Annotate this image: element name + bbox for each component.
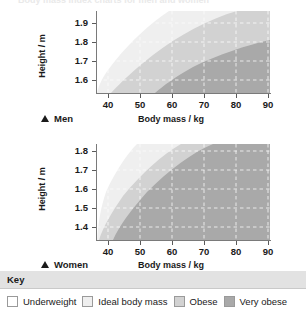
chart-men-x-tickmark [140, 94, 141, 98]
key-label-ideal-body-mass: Ideal body mass [98, 296, 167, 307]
chart-women-y-tick: 1.5 [45, 203, 88, 213]
chart-women-caption: Women [41, 259, 88, 270]
chart-women-plot-area [97, 144, 270, 240]
key-item-very-obese: Very obese [224, 296, 288, 307]
chart-men-x-tickmark [108, 94, 109, 98]
key-item-underweight: Underweight [7, 296, 76, 307]
chart-women-x-tick: 40 [98, 247, 118, 257]
chart-men-x-axis-line [96, 93, 271, 94]
triangle-marker-icon [41, 115, 49, 122]
chart-women-x-tickmark [108, 241, 109, 245]
chart-men-x-tick: 40 [98, 100, 118, 110]
chart-men: Height / m 1.9 1.8 1.7 1.6 [0, 6, 306, 134]
chart-women-x-tick: 90 [258, 247, 278, 257]
chart-men-bands-svg [97, 11, 270, 93]
key-legend: Key Underweight Ideal body mass Obese Ve… [0, 271, 306, 313]
chart-men-y-tick: 1.9 [45, 18, 88, 28]
chart-women-x-tick: 70 [194, 247, 214, 257]
chart-men-x-tickmark [268, 94, 269, 98]
key-item-list: Underweight Ideal body mass Obese Very o… [0, 289, 306, 313]
chart-women-x-tick: 50 [130, 247, 150, 257]
key-header: Key [0, 271, 306, 288]
key-label-obese: Obese [190, 296, 218, 307]
chart-women-y-tick: 1.7 [45, 165, 88, 175]
triangle-marker-icon [41, 261, 49, 268]
chart-men-x-tick: 80 [226, 100, 246, 110]
chart-men-x-tick: 60 [162, 100, 182, 110]
chart-women-x-tickmark [172, 241, 173, 245]
figure-title-text: Body mass index charts for men and women [18, 0, 306, 5]
chart-men-x-tick: 90 [258, 100, 278, 110]
chart-men-caption-label: Men [54, 113, 73, 124]
key-item-ideal-body-mass: Ideal body mass [82, 296, 167, 307]
chart-men-x-tick: 50 [130, 100, 150, 110]
chart-women-y-tick: 1.4 [45, 222, 88, 232]
chart-women-bands-svg [97, 144, 270, 240]
chart-men-x-tick: 70 [194, 100, 214, 110]
chart-men-plot-area [97, 11, 270, 93]
key-title: Key [7, 274, 24, 285]
key-label-underweight: Underweight [23, 296, 76, 307]
key-label-very-obese: Very obese [240, 296, 288, 307]
chart-women-y-tick: 1.6 [45, 184, 88, 194]
chart-men-x-tickmark [236, 94, 237, 98]
chart-women: Height / m 1.8 1.7 1.6 1.5 1.4 [0, 139, 306, 269]
chart-women-x-tickmark [140, 241, 141, 245]
chart-women-x-axis-line [96, 240, 271, 241]
chart-men-x-axis-label: Body mass / kg [138, 114, 204, 124]
key-swatch-underweight [7, 296, 18, 307]
chart-women-x-tickmark [236, 241, 237, 245]
chart-women-x-tick: 60 [162, 247, 182, 257]
chart-men-y-tick: 1.6 [45, 75, 88, 85]
key-item-obese: Obese [174, 296, 218, 307]
key-swatch-ideal-body-mass [82, 296, 93, 307]
chart-men-y-tick: 1.8 [45, 37, 88, 47]
key-swatch-obese [174, 296, 185, 307]
chart-men-y-tick: 1.7 [45, 56, 88, 66]
chart-women-x-tickmark [268, 241, 269, 245]
bmi-chart-figure: Body mass index charts for men and women… [0, 0, 306, 314]
chart-women-x-axis-label: Body mass / kg [138, 260, 204, 270]
chart-women-x-tick: 80 [226, 247, 246, 257]
chart-women-y-tick: 1.8 [45, 146, 88, 156]
chart-men-caption: Men [41, 113, 73, 124]
chart-women-x-tickmark [204, 241, 205, 245]
key-swatch-very-obese [224, 296, 235, 307]
chart-women-caption-label: Women [54, 259, 88, 270]
chart-men-x-tickmark [172, 94, 173, 98]
chart-men-x-tickmark [204, 94, 205, 98]
